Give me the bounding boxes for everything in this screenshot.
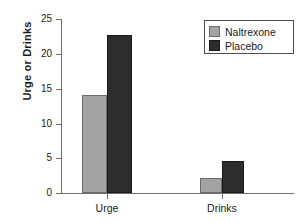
y-tick-label-10: 10 — [28, 119, 52, 129]
x-category-label-drinks: Drinks — [187, 202, 257, 214]
legend-item-naltrexone: Naltrexone — [209, 25, 289, 38]
legend-item-placebo: Placebo — [209, 39, 289, 52]
bar-urge-placebo — [107, 35, 132, 193]
y-tick-label-0: 0 — [28, 188, 52, 198]
legend-swatch-naltrexone-icon — [209, 26, 220, 37]
bar-drinks-naltrexone — [200, 178, 222, 193]
legend-swatch-placebo-icon — [209, 40, 220, 51]
legend-label-naltrexone: Naltrexone — [225, 26, 276, 38]
x-axis-line — [61, 193, 294, 194]
y-tick-mark-0 — [56, 193, 61, 194]
y-tick-label-15: 15 — [28, 84, 52, 94]
x-tick-mark-drinks — [222, 194, 223, 199]
y-tick-label-5: 5 — [28, 153, 52, 163]
y-tick-label-25: 25 — [28, 14, 52, 24]
bar-urge-naltrexone — [82, 95, 107, 193]
bar-drinks-placebo — [222, 161, 244, 193]
y-tick-label-20: 20 — [28, 49, 52, 59]
legend: Naltrexone Placebo — [204, 20, 294, 54]
x-category-label-urge: Urge — [72, 202, 142, 214]
bar-chart: Urge or Drinks 0 5 10 15 20 25 Urge Drin… — [0, 0, 304, 223]
legend-label-placebo: Placebo — [225, 40, 263, 52]
x-tick-mark-urge — [107, 194, 108, 199]
